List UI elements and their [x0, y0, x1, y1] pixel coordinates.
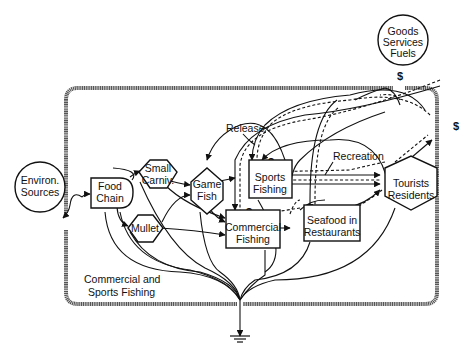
- source-environ-line1: Environ.: [21, 174, 60, 186]
- node-seafood-line1: Seafood in: [307, 214, 357, 226]
- source-environ: Environ. Sources: [15, 162, 65, 212]
- node-tourists-residents: Tourists Residents: [385, 156, 437, 210]
- source-goods-services-fuels: Goods Services Fuels: [378, 15, 428, 65]
- node-small-carniv-line1: Small: [145, 162, 171, 174]
- node-commercial-fishing-line2: Fishing: [236, 233, 270, 245]
- node-seafood-line2: Restaurants: [304, 226, 361, 238]
- node-commercial-fishing-line1: Commercial: [225, 221, 281, 233]
- node-game-fish: Game Fish: [191, 168, 223, 214]
- node-mullet-label: Mullet: [131, 222, 159, 234]
- node-game-fish-line1: Game: [193, 178, 222, 190]
- node-sports-fishing-line2: Fishing: [253, 183, 287, 195]
- recreation-label: Recreation: [333, 150, 384, 162]
- node-game-fish-line2: Fish: [197, 190, 217, 202]
- node-tourists-line2: Residents: [388, 189, 435, 201]
- node-sports-fishing-line1: Sports: [255, 171, 285, 183]
- money-sign: $: [397, 70, 403, 82]
- source-environ-line2: Sources: [21, 186, 60, 198]
- node-food-chain-line1: Food: [98, 180, 122, 192]
- system-label-line1: Commercial and: [84, 273, 161, 285]
- node-seafood-restaurants: Seafood in Restaurants: [304, 205, 361, 241]
- node-sports-fishing: Sports Fishing: [249, 160, 292, 198]
- node-tourists-line1: Tourists: [393, 177, 429, 189]
- money-sign: $: [453, 120, 459, 132]
- system-label-line2: Sports Fishing: [88, 286, 155, 298]
- node-commercial-fishing: Commercial Fishing: [225, 210, 281, 248]
- node-food-chain: Food Chain: [91, 178, 133, 208]
- node-small-carniv-line2: Carniv.: [142, 174, 174, 186]
- node-small-carniv: Small Carniv.: [139, 160, 177, 188]
- energy-systems-diagram: $ $ $ $ $ $ Release Recreation Environ. …: [0, 0, 476, 361]
- source-goods-line3: Fuels: [390, 47, 416, 59]
- release-label: Release: [226, 122, 265, 134]
- heat-sink-icon: [230, 300, 250, 342]
- node-food-chain-line2: Chain: [96, 192, 124, 204]
